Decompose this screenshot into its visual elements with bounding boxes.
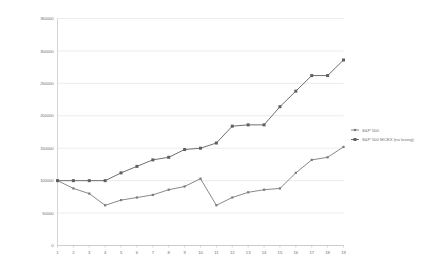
data-point-marker xyxy=(247,191,249,193)
data-point-marker xyxy=(263,123,266,126)
x-tick-label: 4 xyxy=(104,250,107,255)
x-tick-label: 19 xyxy=(341,250,346,255)
x-tick-label: 8 xyxy=(168,250,171,255)
data-point-marker xyxy=(311,159,313,161)
data-point-marker xyxy=(104,204,106,206)
data-point-marker xyxy=(120,171,123,174)
data-point-marker xyxy=(231,125,234,128)
x-tick-label: 13 xyxy=(246,250,251,255)
data-point-marker xyxy=(88,193,90,195)
data-point-marker xyxy=(167,156,170,159)
x-tick-label: 16 xyxy=(293,250,298,255)
y-tick-label: 50000 xyxy=(42,211,54,216)
data-point-marker xyxy=(136,196,138,198)
data-point-marker xyxy=(152,194,154,196)
data-point-marker xyxy=(279,187,281,189)
data-point-marker xyxy=(56,179,59,182)
data-point-marker xyxy=(151,158,154,161)
data-point-marker xyxy=(278,105,281,108)
line-chart: 0500001000001500002000002500003000003500… xyxy=(0,0,433,269)
data-point-marker xyxy=(104,179,107,182)
x-tick-label: 15 xyxy=(278,250,283,255)
legend-label: S&P 500 MCEX (no losing) xyxy=(362,137,414,142)
data-point-marker xyxy=(88,179,91,182)
y-tick-label: 0 xyxy=(51,243,54,248)
axes xyxy=(58,19,344,246)
data-point-marker xyxy=(215,142,218,145)
x-tick-label: 5 xyxy=(120,250,123,255)
data-point-marker xyxy=(135,165,138,168)
legend-label: S&P 500 xyxy=(362,128,379,133)
data-point-marker xyxy=(120,199,122,201)
x-tick-label: 11 xyxy=(214,250,219,255)
data-point-marker xyxy=(326,74,329,77)
x-tick-label: 2 xyxy=(72,250,75,255)
data-point-marker xyxy=(72,187,74,189)
y-tick-label: 250000 xyxy=(40,81,54,86)
chart-legend: S&P 500S&P 500 MCEX (no losing) xyxy=(351,128,414,143)
y-tick-label: 100000 xyxy=(40,178,54,183)
y-tick-label: 150000 xyxy=(40,146,54,151)
data-point-marker xyxy=(183,148,186,151)
x-tick-label: 1 xyxy=(56,250,59,255)
data-point-marker xyxy=(184,185,186,187)
series-1 xyxy=(56,59,345,183)
y-tick-label: 350000 xyxy=(40,16,54,21)
data-point-marker xyxy=(199,178,201,180)
legend-marker xyxy=(354,129,356,131)
data-point-marker xyxy=(72,179,75,182)
series-line xyxy=(58,60,344,181)
series-line xyxy=(58,147,344,205)
x-tick-label: 14 xyxy=(262,250,267,255)
x-tick-label: 3 xyxy=(88,250,91,255)
y-tick-label: 200000 xyxy=(40,113,54,118)
x-tick-label: 10 xyxy=(198,250,203,255)
data-point-marker xyxy=(342,59,345,62)
legend-marker xyxy=(354,138,357,141)
x-tick-label: 17 xyxy=(309,250,314,255)
chart-container: 0500001000001500002000002500003000003500… xyxy=(0,0,433,269)
data-point-marker xyxy=(231,196,233,198)
data-point-marker xyxy=(327,156,329,158)
series-0 xyxy=(56,146,344,207)
data-point-marker xyxy=(199,147,202,150)
x-axis-tick-labels: 12345678910111213141516171819 xyxy=(56,246,346,256)
data-point-marker xyxy=(294,90,297,93)
data-series-layer xyxy=(56,59,345,207)
data-point-marker xyxy=(215,204,217,206)
x-tick-label: 12 xyxy=(230,250,235,255)
data-point-marker xyxy=(247,123,250,126)
data-point-marker xyxy=(342,146,344,148)
data-point-marker xyxy=(310,74,313,77)
data-point-marker xyxy=(295,172,297,174)
x-tick-label: 9 xyxy=(183,250,186,255)
gridlines xyxy=(58,19,344,246)
data-point-marker xyxy=(168,189,170,191)
y-axis-tick-labels: 0500001000001500002000002500003000003500… xyxy=(40,16,54,248)
y-tick-label: 300000 xyxy=(40,49,54,54)
x-tick-label: 6 xyxy=(136,250,139,255)
data-point-marker xyxy=(263,189,265,191)
x-tick-label: 18 xyxy=(325,250,330,255)
x-tick-label: 7 xyxy=(152,250,155,255)
